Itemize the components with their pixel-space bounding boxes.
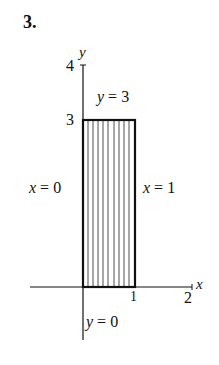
region-boundary [83, 120, 135, 287]
y-tick-3: 3 [66, 111, 74, 129]
x-tick-1: 1 [130, 289, 137, 305]
region-hatching [88, 121, 129, 287]
x-axis-label: x [196, 276, 203, 293]
y-tick-4: 4 [66, 57, 74, 75]
label-left: x = 0 [29, 179, 61, 197]
y-axis-label: y [79, 44, 86, 61]
label-right: x = 1 [143, 179, 175, 197]
label-top: y = 3 [97, 88, 129, 106]
label-bottom: y = 0 [86, 313, 118, 331]
x-tick-2: 2 [184, 289, 192, 307]
